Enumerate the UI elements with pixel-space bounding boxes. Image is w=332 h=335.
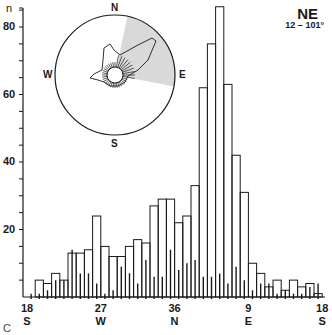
compass-label-n: N <box>111 3 118 13</box>
compass-label-w: W <box>43 70 52 80</box>
histogram-bars <box>35 7 322 297</box>
rose-diagram-inset <box>55 15 175 135</box>
x-tick-label: 36N <box>167 303 183 327</box>
y-axis-label: n <box>6 3 12 14</box>
x-tick-label: 27W <box>93 303 109 327</box>
x-tick-label: 18S <box>314 303 330 327</box>
y-tick-label: 60 <box>3 89 15 100</box>
x-tick-label: 9E <box>240 303 256 327</box>
y-axis <box>19 8 325 297</box>
y-tick-label: 80 <box>3 21 15 32</box>
compass-label-s: S <box>111 139 118 149</box>
panel-label: C <box>3 322 11 334</box>
y-tick-label: 40 <box>3 156 15 167</box>
compass-label-e: E <box>179 70 186 80</box>
histogram-chart <box>0 0 332 335</box>
y-tick-label: 20 <box>3 224 15 235</box>
chart-subtitle: 12 – 101° <box>285 20 324 30</box>
x-tick-label: 18S <box>19 303 35 327</box>
